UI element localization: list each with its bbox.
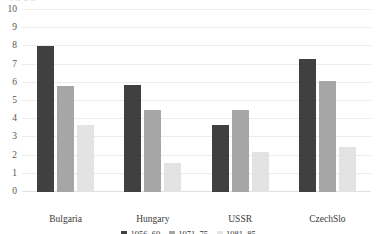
x-axis-label: USSR <box>197 214 284 224</box>
bar[interactable] <box>164 163 181 192</box>
y-axis-tick-label: 7 <box>12 59 17 69</box>
bar[interactable] <box>77 125 94 192</box>
bar[interactable] <box>124 85 141 192</box>
bar-group <box>197 10 284 192</box>
x-axis-label: Bulgaria <box>22 214 109 224</box>
y-axis-tick-label: 2 <box>12 150 17 160</box>
chart-legend: 1956–601971–751981–85 <box>0 229 377 234</box>
plot-area: 012345678910 <box>22 10 371 192</box>
legend-item[interactable]: 1956–60 <box>121 229 160 234</box>
cropped-title-text: ȼ ɤ ɑ ɑ ɑ <box>2 0 35 3</box>
bar[interactable] <box>252 152 269 192</box>
bar[interactable] <box>319 81 336 192</box>
legend-label: 1956–60 <box>130 229 160 234</box>
y-axis-tick-label: 8 <box>12 40 17 50</box>
x-axis-label: Hungary <box>109 214 196 224</box>
bar[interactable] <box>144 110 161 192</box>
legend-item[interactable]: 1971–75 <box>169 229 208 234</box>
bar-group <box>284 10 371 192</box>
bar[interactable] <box>212 125 229 192</box>
legend-label: 1971–75 <box>178 229 208 234</box>
y-axis-tick-label: 10 <box>8 4 18 14</box>
y-axis-tick-label: 3 <box>12 131 17 141</box>
y-axis-tick-label: 6 <box>12 77 17 87</box>
legend-item[interactable]: 1981–85 <box>217 229 256 234</box>
bar-groups <box>22 10 371 192</box>
legend-swatch-icon <box>217 231 223 234</box>
y-axis-tick-label: 5 <box>12 95 17 105</box>
bar-group <box>22 10 109 192</box>
y-axis-tick-label: 9 <box>12 22 17 32</box>
x-axis-labels: BulgariaHungaryUSSRCzechSlo <box>22 214 371 224</box>
bar[interactable] <box>299 59 316 192</box>
bar[interactable] <box>339 147 356 193</box>
bar-chart: 012345678910 BulgariaHungaryUSSRCzechSlo… <box>0 8 377 200</box>
y-axis-tick-label: 0 <box>12 186 17 196</box>
bar-group <box>109 10 196 192</box>
bar[interactable] <box>57 86 74 192</box>
legend-label: 1981–85 <box>226 229 256 234</box>
bar[interactable] <box>37 46 54 192</box>
legend-swatch-icon <box>169 231 175 234</box>
legend-swatch-icon <box>121 231 127 234</box>
y-axis-tick-label: 4 <box>12 113 17 123</box>
bar[interactable] <box>232 110 249 192</box>
x-axis-label: CzechSlo <box>284 214 371 224</box>
y-axis-tick-label: 1 <box>12 168 17 178</box>
